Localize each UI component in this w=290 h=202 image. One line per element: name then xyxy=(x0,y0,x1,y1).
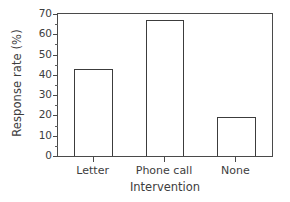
y-tick-40 xyxy=(53,75,58,76)
y-tick-50 xyxy=(53,55,58,56)
x-tick-label-none: None xyxy=(221,164,250,177)
bar-letter xyxy=(74,69,113,156)
y-minor-tick-45 xyxy=(55,65,58,66)
y-tick-label-60: 60 xyxy=(26,28,52,38)
bar-chart-figure: Response rate (%) 010203040506070 Letter… xyxy=(0,0,290,202)
x-tick-label-phone-call: Phone call xyxy=(136,164,192,177)
x-axis-tick-labels: LetterPhone callNone xyxy=(57,164,273,180)
y-tick-70 xyxy=(53,14,58,15)
x-tick-label-letter: Letter xyxy=(76,164,109,177)
y-tick-60 xyxy=(53,34,58,35)
y-axis-tick-labels: 010203040506070 xyxy=(26,0,52,202)
y-tick-label-0: 0 xyxy=(26,150,52,160)
y-tick-30 xyxy=(53,95,58,96)
x-axis-ticks xyxy=(57,157,273,163)
x-tick-phone-call xyxy=(164,157,165,162)
y-minor-tick-55 xyxy=(55,44,58,45)
x-tick-letter xyxy=(93,157,94,162)
y-minor-tick-5 xyxy=(55,146,58,147)
bar-none xyxy=(217,117,256,156)
y-minor-tick-15 xyxy=(55,126,58,127)
y-tick-20 xyxy=(53,115,58,116)
bar-phone-call xyxy=(146,20,185,156)
y-tick-label-40: 40 xyxy=(26,69,52,79)
plot-area xyxy=(57,13,273,157)
y-tick-label-10: 10 xyxy=(26,130,52,140)
y-tick-label-70: 70 xyxy=(26,8,52,18)
y-minor-tick-25 xyxy=(55,105,58,106)
x-tick-none xyxy=(235,157,236,162)
y-tick-10 xyxy=(53,136,58,137)
y-minor-tick-65 xyxy=(55,24,58,25)
y-tick-label-30: 30 xyxy=(26,89,52,99)
y-minor-tick-35 xyxy=(55,85,58,86)
x-axis-title: Intervention xyxy=(57,180,273,194)
y-tick-label-20: 20 xyxy=(26,109,52,119)
y-tick-label-50: 50 xyxy=(26,49,52,59)
